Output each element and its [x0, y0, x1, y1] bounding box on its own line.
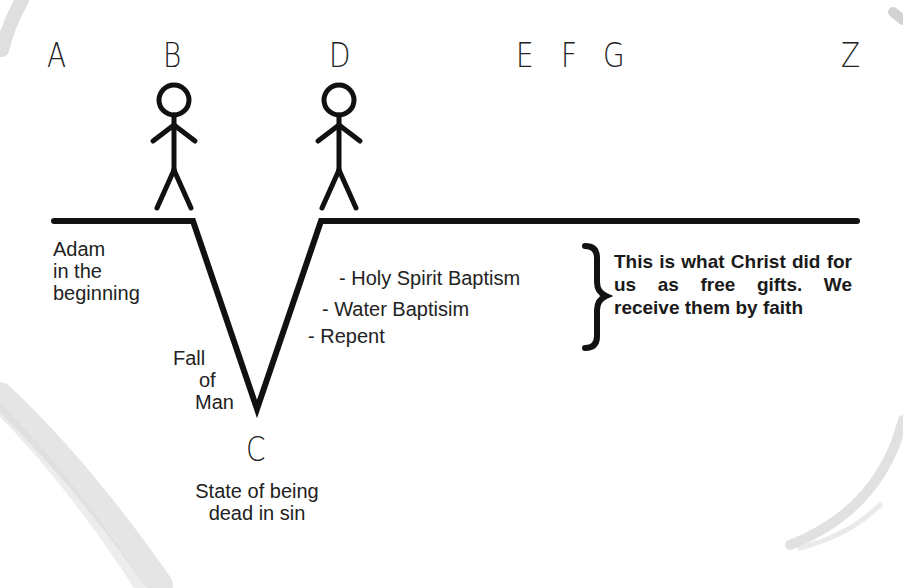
fall-of-man-label: Fall of Man — [165, 347, 241, 413]
point-label-e: E — [516, 38, 534, 72]
point-label-d: D — [329, 38, 350, 72]
point-label-c: C — [246, 432, 265, 466]
fall-label-line: of — [165, 369, 241, 391]
point-label-g: G — [603, 38, 625, 72]
stick-figure-icon — [318, 85, 360, 208]
step-repent: - Repent — [308, 324, 385, 348]
point-label-f: F — [561, 38, 577, 72]
right-curly-brace-icon — [585, 246, 606, 348]
caption-line: State of being — [172, 480, 342, 502]
fall-label-line: Man — [165, 391, 241, 413]
caption-line: dead in sin — [172, 502, 342, 524]
adam-label: Adam in the beginning — [53, 238, 140, 304]
state-of-sin-caption: State of being dead in sin — [172, 480, 342, 524]
step-water-baptism: - Water Baptisim — [322, 297, 469, 321]
stick-figure-icon — [153, 85, 195, 208]
fall-label-line: Fall — [165, 347, 241, 369]
adam-label-line: Adam — [53, 238, 140, 260]
step-holy-spirit-baptism: - Holy Spirit Baptism — [339, 266, 520, 290]
adam-label-line: beginning — [53, 282, 140, 304]
adam-label-line: in the — [53, 260, 140, 282]
point-label-z: Z — [841, 38, 860, 72]
point-label-a: A — [47, 38, 66, 72]
diagram-canvas: A B D E F G Z Adam in the beginning Fall… — [0, 0, 903, 588]
point-label-b: B — [163, 38, 181, 72]
free-gifts-note: This is what Christ did for us as free g… — [614, 250, 852, 319]
